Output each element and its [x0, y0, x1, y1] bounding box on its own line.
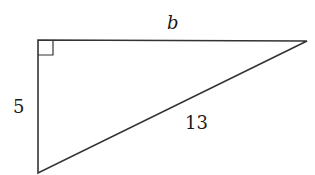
label-side-b: b — [167, 14, 179, 32]
label-hypotenuse-13: 13 — [185, 114, 208, 132]
label-side-5: 5 — [13, 98, 24, 116]
right-angle-marker — [38, 40, 53, 55]
triangle-figure — [0, 0, 315, 175]
triangle-outline — [38, 40, 307, 173]
